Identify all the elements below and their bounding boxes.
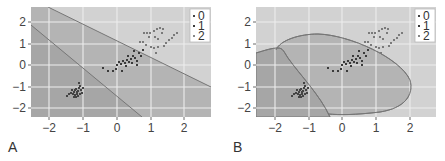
svg-text:−2: −2 — [268, 121, 282, 135]
legend-a: 0 1 2 — [190, 9, 210, 43]
svg-text:1: 1 — [19, 37, 26, 51]
legend-entry-2: 2 — [198, 29, 205, 43]
svg-text:−1: −1 — [12, 80, 26, 94]
svg-text:1: 1 — [244, 37, 251, 51]
svg-text:0: 0 — [19, 58, 26, 72]
panel-b-plot-area: 0 1 2 — [256, 7, 436, 117]
svg-text:2: 2 — [407, 121, 414, 135]
x-axis-labels-b: −2 −1 0 1 2 — [268, 121, 414, 135]
panel-label-b: B — [233, 139, 242, 155]
x-axis-labels-a: −2 −1 0 1 2 — [42, 121, 188, 135]
svg-text:−2: −2 — [12, 101, 26, 115]
figure: 0 1 2 2 1 0 −1 −2 −2 −1 0 1 2 A — [0, 0, 445, 161]
panel-label-a: A — [8, 139, 18, 155]
legend-entry-2: 2 — [423, 29, 430, 43]
panel-a: 0 1 2 2 1 0 −1 −2 −2 −1 0 1 2 A — [8, 7, 211, 155]
svg-text:2: 2 — [244, 15, 251, 29]
panel-a-plot-area: 0 1 2 — [31, 7, 211, 117]
svg-text:2: 2 — [181, 121, 188, 135]
svg-text:−2: −2 — [42, 121, 56, 135]
panel-b: 0 1 2 2 1 0 −1 −2 −2 −1 0 1 2 B — [233, 7, 436, 155]
svg-text:−2: −2 — [237, 101, 251, 115]
svg-text:2: 2 — [19, 15, 26, 29]
y-axis-labels-a: 2 1 0 −1 −2 — [12, 15, 26, 115]
svg-text:1: 1 — [373, 121, 380, 135]
svg-text:0: 0 — [114, 121, 121, 135]
legend-b: 0 1 2 — [415, 9, 435, 43]
svg-text:0: 0 — [244, 58, 251, 72]
svg-text:0: 0 — [339, 121, 346, 135]
svg-text:−1: −1 — [302, 121, 316, 135]
svg-text:1: 1 — [148, 121, 155, 135]
svg-text:−1: −1 — [237, 80, 251, 94]
svg-text:−1: −1 — [76, 121, 90, 135]
y-axis-labels-b: 2 1 0 −1 −2 — [237, 15, 251, 115]
